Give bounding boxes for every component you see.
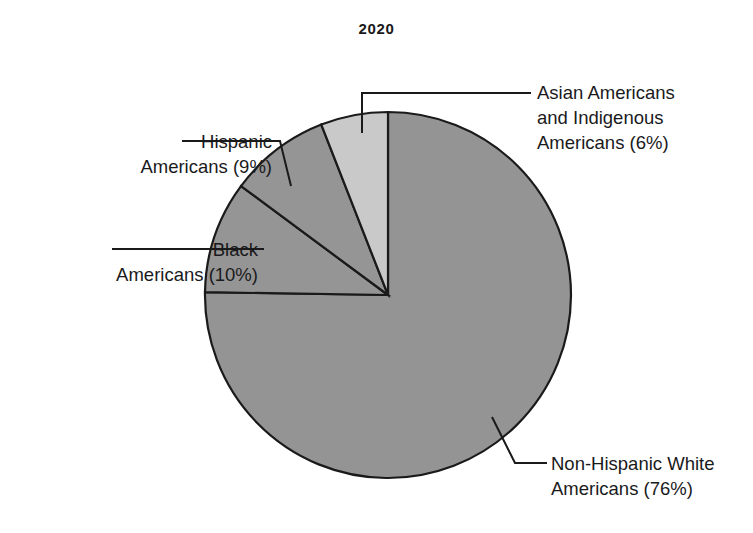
callout-asian-line-2: and Indigenous: [537, 105, 675, 130]
callout-non-hispanic-white-americans: Non-Hispanic White Americans (76%): [551, 451, 714, 501]
callout-hispanic-americans: Hispanic Americans (9%): [140, 129, 272, 179]
callout-hispanic-line-2: Americans (9%): [140, 154, 272, 179]
callout-asian-indigenous-americans: Asian Americans and Indigenous Americans…: [537, 80, 675, 155]
callout-black-line-1: Black: [116, 237, 258, 262]
callout-black-line-2: Americans (10%): [116, 262, 258, 287]
callout-asian-line-3: Americans (6%): [537, 130, 675, 155]
pie-chart-figure: 2020 Asian Americans and Indigenous Amer…: [0, 0, 753, 533]
callout-black-americans: Black Americans (10%): [116, 237, 258, 287]
callout-white-line-2: Americans (76%): [551, 476, 714, 501]
callout-asian-line-1: Asian Americans: [537, 80, 675, 105]
callout-hispanic-line-1: Hispanic: [140, 129, 272, 154]
callout-white-line-1: Non-Hispanic White: [551, 451, 714, 476]
